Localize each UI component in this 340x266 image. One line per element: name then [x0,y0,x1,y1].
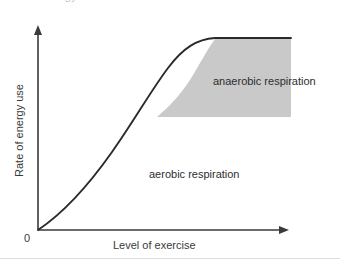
x-axis-arrowhead [279,226,289,234]
y-axis-label: Rate of energy use [13,76,26,186]
y-axis-arrowhead [34,25,42,35]
bottom-divider-rule [0,258,340,259]
x-axis-label: Level of exercise [113,239,196,252]
plot-area [0,0,340,266]
origin-tick-label: 0 [24,232,30,245]
anaerobic-respiration-label: anaerobic respiration [213,75,316,88]
chart-figure: energy use in exercise Rate of energy us… [0,0,340,266]
aerobic-respiration-label: aerobic respiration [149,168,240,181]
